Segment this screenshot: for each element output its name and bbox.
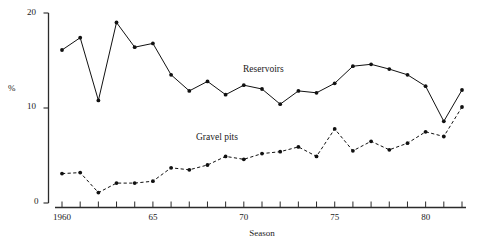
x-tick-label-1960: 1960: [53, 212, 71, 222]
x-tick-label-1975: 75: [330, 212, 339, 222]
data-point-gravel-pits-1974: [315, 155, 319, 159]
data-point-gravel-pits-1971: [260, 152, 264, 156]
data-point-gravel-pits-1973: [297, 145, 301, 149]
chart-figure: % 20 10 0 Reservoirs Gravel pits 1960657…: [0, 0, 480, 252]
data-point-gravel-pits-1981: [442, 135, 446, 139]
data-point-gravel-pits-1960: [60, 172, 64, 176]
data-point-reservoirs-1979: [406, 73, 410, 77]
data-point-gravel-pits-1969: [224, 155, 228, 159]
data-point-gravel-pits-1976: [351, 149, 355, 153]
data-point-gravel-pits-1967: [187, 168, 191, 172]
data-point-reservoirs-1966: [169, 73, 173, 77]
data-point-gravel-pits-1980: [424, 130, 428, 134]
data-point-reservoirs-1967: [187, 89, 191, 93]
data-point-reservoirs-1978: [387, 67, 391, 71]
data-point-reservoirs-1963: [115, 21, 119, 25]
data-point-gravel-pits-1982: [460, 105, 464, 109]
data-point-reservoirs-1969: [224, 93, 228, 97]
data-point-reservoirs-1965: [151, 42, 155, 46]
data-point-gravel-pits-1965: [151, 179, 155, 183]
data-point-gravel-pits-1972: [278, 150, 282, 154]
data-point-reservoirs-1980: [424, 84, 428, 88]
data-point-reservoirs-1982: [460, 88, 464, 92]
x-tick-label-1965: 65: [148, 212, 157, 222]
data-point-reservoirs-1972: [278, 102, 282, 106]
data-point-gravel-pits-1977: [369, 139, 373, 143]
data-point-reservoirs-1975: [333, 81, 337, 85]
data-point-reservoirs-1964: [133, 45, 137, 49]
data-point-reservoirs-1981: [442, 119, 446, 123]
data-point-gravel-pits-1975: [333, 127, 337, 131]
series-line-reservoirs: [62, 23, 462, 122]
data-point-gravel-pits-1978: [387, 148, 391, 152]
data-point-gravel-pits-1968: [206, 163, 210, 167]
data-point-gravel-pits-1963: [115, 181, 119, 185]
data-point-gravel-pits-1970: [242, 157, 246, 161]
data-point-gravel-pits-1962: [97, 191, 101, 195]
data-point-reservoirs-1968: [206, 80, 210, 84]
data-point-reservoirs-1960: [60, 48, 64, 52]
data-point-reservoirs-1976: [351, 64, 355, 68]
data-point-reservoirs-1970: [242, 83, 246, 87]
data-point-reservoirs-1974: [315, 91, 319, 95]
data-point-reservoirs-1977: [369, 62, 373, 66]
data-point-gravel-pits-1964: [133, 181, 137, 185]
x-tick-label-1980: 80: [421, 212, 430, 222]
data-point-gravel-pits-1966: [169, 166, 173, 170]
data-point-reservoirs-1962: [97, 99, 101, 103]
data-point-reservoirs-1971: [260, 87, 264, 91]
data-point-reservoirs-1961: [78, 36, 82, 40]
data-point-gravel-pits-1979: [406, 141, 410, 145]
series-line-gravel-pits: [62, 107, 462, 193]
data-point-reservoirs-1973: [297, 89, 301, 93]
x-axis-title: Season: [249, 228, 275, 238]
x-tick-label-1970: 70: [239, 212, 248, 222]
data-point-gravel-pits-1961: [78, 171, 82, 175]
